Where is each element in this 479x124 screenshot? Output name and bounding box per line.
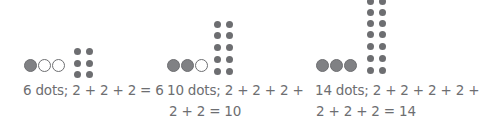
- caption-line-2: 2 + 2 + 2 = 14: [316, 100, 416, 122]
- caption-line-1: 14 dots; 2 + 2 + 2 + 2 +: [315, 79, 479, 101]
- filled-circle: [344, 59, 357, 72]
- filled-circle: [316, 59, 329, 72]
- filled-circle: [330, 59, 343, 72]
